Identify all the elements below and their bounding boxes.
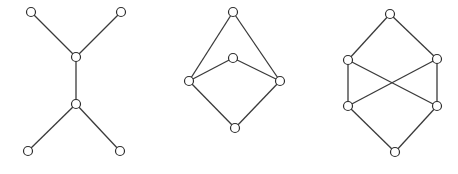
node-b bbox=[117, 8, 126, 17]
node-ll bbox=[344, 102, 353, 111]
crossed-hexagon-graph bbox=[344, 10, 442, 157]
edge-a-c bbox=[31, 12, 76, 57]
edge-top-ul bbox=[348, 14, 390, 60]
node-ur bbox=[433, 55, 442, 64]
node-lr bbox=[433, 102, 442, 111]
pentagon-lattice-graph bbox=[185, 8, 285, 133]
edge-left-bottom bbox=[189, 81, 235, 128]
node-mid bbox=[229, 54, 238, 63]
graph-diagram-canvas bbox=[0, 0, 458, 174]
node-e bbox=[24, 147, 33, 156]
edge-lr-bottom bbox=[395, 106, 437, 152]
edge-right-bottom bbox=[235, 81, 280, 128]
node-right bbox=[276, 77, 285, 86]
edge-ll-bottom bbox=[348, 106, 395, 152]
node-top bbox=[386, 10, 395, 19]
node-bottom bbox=[391, 148, 400, 157]
node-top bbox=[229, 8, 238, 17]
tree-graph bbox=[24, 8, 126, 156]
node-c bbox=[72, 53, 81, 62]
node-a bbox=[27, 8, 36, 17]
node-ul bbox=[344, 56, 353, 65]
edge-top-left bbox=[189, 12, 233, 81]
edge-d-e bbox=[28, 104, 76, 151]
edge-top-ur bbox=[390, 14, 437, 59]
edge-b-c bbox=[76, 12, 121, 57]
node-bottom bbox=[231, 124, 240, 133]
node-d bbox=[72, 100, 81, 109]
node-left bbox=[185, 77, 194, 86]
edge-top-right bbox=[233, 12, 280, 81]
node-f bbox=[116, 147, 125, 156]
edge-d-f bbox=[76, 104, 120, 151]
